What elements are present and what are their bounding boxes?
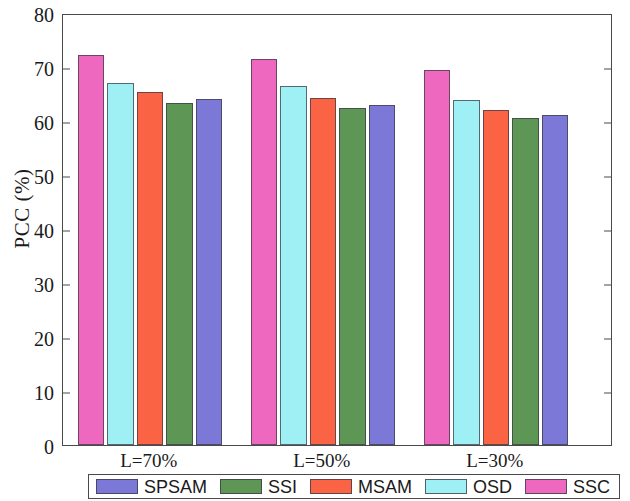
legend-entry-ssi: SSI [220, 478, 297, 496]
legend-label-ssi: SSI [268, 478, 297, 496]
y-tick-label: 40 [34, 221, 63, 241]
legend-swatch-msam [310, 479, 352, 494]
bar-ssi-l70 [166, 103, 193, 445]
y-tick-label: 70 [34, 59, 63, 79]
legend-label-spsam: SPSAM [144, 478, 207, 496]
y-tick-label: 0 [44, 437, 63, 457]
legend-swatch-osd [425, 479, 467, 494]
y-axis-title: PCC (%) [10, 109, 35, 309]
bar-ssc-l30 [424, 70, 451, 445]
chart-legend: SPSAMSSIMSAMOSDSSC [88, 474, 620, 499]
bar-ssc-l70 [78, 55, 105, 445]
y-tick-label: 10 [34, 383, 63, 403]
bar-msam-l50 [310, 98, 337, 445]
bar-spsam-l30 [542, 115, 569, 445]
legend-entry-osd: OSD [425, 478, 512, 496]
legend-label-osd: OSD [473, 478, 512, 496]
y-tick-label: 50 [34, 167, 63, 187]
bar-osd-l30 [453, 100, 480, 445]
legend-entry-ssc: SSC [525, 478, 610, 496]
x-group-label-2: L=50% [293, 450, 350, 472]
bar-osd-l50 [280, 86, 307, 445]
y-tick-label: 20 [34, 329, 63, 349]
y-tick-label: 60 [34, 113, 63, 133]
bars-layer [63, 15, 611, 445]
bar-ssi-l50 [339, 108, 366, 445]
bar-msam-l70 [137, 92, 164, 445]
bar-spsam-l50 [369, 105, 396, 445]
bar-msam-l30 [483, 110, 510, 445]
legend-entry-msam: MSAM [310, 478, 412, 496]
legend-swatch-ssc [525, 479, 567, 494]
plot-area: 01020304050607080 [62, 14, 612, 446]
legend-swatch-ssi [220, 479, 262, 494]
bar-chart-figure: PCC (%) 01020304050607080 L=70%L=50%L=30… [0, 0, 630, 501]
bar-ssc-l50 [251, 59, 278, 445]
bar-spsam-l70 [196, 99, 223, 445]
legend-label-msam: MSAM [358, 478, 412, 496]
legend-swatch-spsam [96, 479, 138, 494]
x-group-label-1: L=70% [120, 450, 177, 472]
bar-osd-l70 [107, 83, 134, 445]
legend-entry-spsam: SPSAM [96, 478, 207, 496]
y-tick-label: 80 [34, 5, 63, 25]
y-tick-label: 30 [34, 275, 63, 295]
x-group-label-3: L=30% [466, 450, 523, 472]
legend-label-ssc: SSC [573, 478, 610, 496]
bar-ssi-l30 [512, 118, 539, 445]
